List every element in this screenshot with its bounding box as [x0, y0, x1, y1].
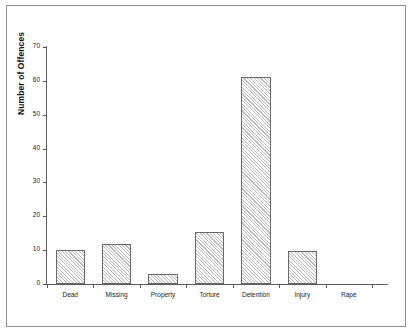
x-axis-spine — [46, 284, 388, 285]
y-tick-label: 20 — [33, 211, 40, 218]
y-tick-label: 40 — [33, 144, 40, 151]
y-tick-mark — [43, 47, 47, 48]
x-tick-mark — [47, 284, 48, 288]
y-tick-label: 0 — [36, 279, 40, 286]
bar-dead — [56, 250, 85, 284]
bar-torture — [195, 232, 224, 284]
y-tick-mark — [43, 81, 47, 82]
y-tick-mark — [43, 115, 47, 116]
x-tick-mark — [186, 284, 187, 288]
x-axis-label-detention: Detention — [233, 291, 279, 298]
x-axis-label-property: Property — [140, 291, 186, 298]
x-axis-label-torture: Torture — [186, 291, 232, 298]
y-tick-label: 30 — [33, 177, 40, 184]
x-axis-label-dead: Dead — [47, 291, 93, 298]
y-tick-label: 10 — [33, 245, 40, 252]
bar-injury — [288, 251, 317, 284]
y-axis-title: Number of Offences — [16, 5, 26, 115]
y-tick-mark — [43, 216, 47, 217]
x-tick-mark — [93, 284, 94, 288]
y-tick-label: 70 — [33, 42, 40, 49]
y-tick-mark — [43, 250, 47, 251]
x-tick-mark — [233, 284, 234, 288]
plot-area: 010203040506070 — [47, 47, 372, 284]
x-axis-label-missing: Missing — [93, 291, 139, 298]
y-tick-label: 50 — [33, 110, 40, 117]
y-tick-mark — [43, 182, 47, 183]
y-tick-label: 60 — [33, 76, 40, 83]
bar-missing — [102, 244, 131, 284]
x-tick-mark — [279, 284, 280, 288]
x-tick-mark — [372, 284, 373, 288]
x-tick-mark — [140, 284, 141, 288]
y-tick-mark — [43, 149, 47, 150]
chart-figure: Number of Offences 010203040506070 DeadM… — [0, 0, 413, 334]
x-axis-label-rape: Rape — [326, 291, 372, 298]
bar-detention — [241, 77, 270, 284]
bar-property — [148, 274, 177, 284]
x-tick-mark — [326, 284, 327, 288]
x-axis-label-injury: Injury — [279, 291, 325, 298]
